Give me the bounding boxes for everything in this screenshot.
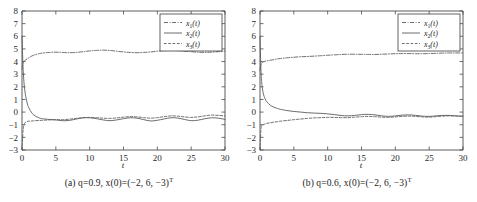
x-tick-label: 5 xyxy=(292,153,297,163)
x-tick-label: 10 xyxy=(323,153,333,163)
chart-svg-b: 051015202530 876543210−1−2−3 x1(t)x2(t)x… xyxy=(238,0,476,172)
panel-b: 051015202530 876543210−1−2−3 x1(t)x2(t)x… xyxy=(238,0,476,202)
y-tick-label: 5 xyxy=(14,44,19,54)
y-tick-label: −1 xyxy=(8,120,18,130)
curves-b xyxy=(260,36,463,150)
caption-sup-a: T xyxy=(169,176,173,183)
y-tick-label: 7 xyxy=(252,19,257,29)
y-tick-label: 7 xyxy=(14,19,19,29)
curves-a xyxy=(22,36,225,150)
plot-area-a: 051015202530 876543210−1−2−3 x1(t)x2(t)x… xyxy=(0,0,238,172)
y-tick-label: 6 xyxy=(14,31,19,41)
y-tick-label: −3 xyxy=(8,145,18,155)
y-tick-label: −3 xyxy=(246,145,256,155)
caption-text-a: (a) q=0.9, x(0)=(−2, 6, −3) xyxy=(65,178,169,188)
legend-b: x1(t)x2(t)x3(t) xyxy=(398,14,460,51)
y-tick-label: 0 xyxy=(252,107,257,117)
y-tick-label: 1 xyxy=(14,95,19,105)
x-tick-label: 25 xyxy=(425,153,435,163)
y-tick-label: 0 xyxy=(14,107,19,117)
figure-container: 051015202530 876543210−1−2−3 x1(t)x2(t)x… xyxy=(0,0,477,202)
x-tick-label: 10 xyxy=(85,153,95,163)
legend-label-2: x2(t) xyxy=(423,29,438,39)
y-tick-label: 8 xyxy=(14,6,19,16)
y-tick-label: −1 xyxy=(246,120,256,130)
chart-svg-a: 051015202530 876543210−1−2−3 x1(t)x2(t)x… xyxy=(0,0,238,172)
y-tick-label: 5 xyxy=(252,44,257,54)
caption-sup-b: T xyxy=(407,176,411,183)
y-tick-label: −2 xyxy=(8,133,18,143)
y-tick-label: 3 xyxy=(252,69,257,79)
y-tick-label: 1 xyxy=(252,95,257,105)
series-line xyxy=(260,116,463,150)
y-tick-label: 8 xyxy=(252,6,257,16)
y-tick-label: −2 xyxy=(246,133,256,143)
legend-label-3: x3(t) xyxy=(185,40,200,50)
x-tick-label: 0 xyxy=(258,153,263,163)
y-tick-label: 4 xyxy=(252,57,257,67)
series-line xyxy=(260,53,463,70)
panel-caption-a: (a) q=0.9, x(0)=(−2, 6, −3)T xyxy=(0,176,238,188)
legend-label-3: x3(t) xyxy=(423,40,438,50)
series-line xyxy=(22,50,225,69)
y-tick-label: 3 xyxy=(14,69,19,79)
y-tick-label: 6 xyxy=(252,31,257,41)
legend-a: x1(t)x2(t)x3(t) xyxy=(160,14,222,51)
x-tick-label: 5 xyxy=(54,153,59,163)
y-tick-label: 2 xyxy=(14,82,19,92)
x-tick-label: 20 xyxy=(153,153,163,163)
x-tick-label: 30 xyxy=(221,153,231,163)
caption-text-b: (b) q=0.6, x(0)=(−2, 6, −3) xyxy=(303,178,408,188)
y-tick-label: 2 xyxy=(252,82,257,92)
legend-label-1: x1(t) xyxy=(423,19,438,29)
plot-area-b: 051015202530 876543210−1−2−3 x1(t)x2(t)x… xyxy=(238,0,476,172)
panel-a: 051015202530 876543210−1−2−3 x1(t)x2(t)x… xyxy=(0,0,238,202)
legend-label-1: x1(t) xyxy=(185,19,200,29)
panel-caption-b: (b) q=0.6, x(0)=(−2, 6, −3)T xyxy=(238,176,476,188)
x-tick-label: 30 xyxy=(459,153,469,163)
x-tick-label: 20 xyxy=(391,153,401,163)
legend-label-2: x2(t) xyxy=(185,29,200,39)
y-tick-label: 4 xyxy=(14,57,19,67)
x-tick-label: 0 xyxy=(20,153,25,163)
x-tick-label: 25 xyxy=(187,153,197,163)
